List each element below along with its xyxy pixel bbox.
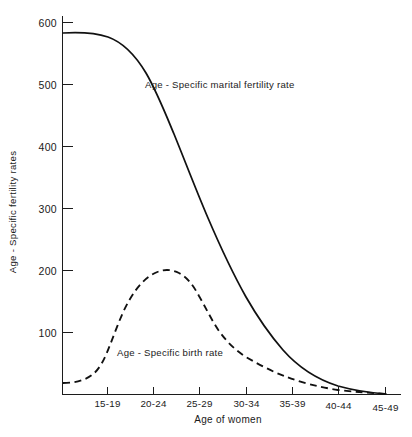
y-axis-title: Age - Specific fertility rates xyxy=(7,151,18,274)
x-tick-labels: 15-19 20-24 25-29 30-34 35-39 40-44 45-4… xyxy=(94,398,398,413)
x-tick-label-25-29: 25-29 xyxy=(186,398,212,409)
x-tick-label-20-24: 20-24 xyxy=(140,398,166,409)
x-tick-label-15-19: 15-19 xyxy=(94,398,120,409)
y-tick-label-400: 400 xyxy=(39,141,57,153)
marital-fertility-curve-label: Age - Specific marital fertility rate xyxy=(145,79,294,90)
y-tick-label-300: 300 xyxy=(39,203,57,215)
y-tick-marks xyxy=(63,23,73,333)
x-tick-label-35-39: 35-39 xyxy=(279,398,305,409)
x-tick-label-30-34: 30-34 xyxy=(233,398,259,409)
x-axis-title: Age of women xyxy=(194,414,262,425)
y-tick-label-600: 600 xyxy=(39,17,57,29)
x-tick-label-45-49: 45-49 xyxy=(372,402,398,413)
birth-rate-curve xyxy=(63,270,386,394)
y-tick-label-500: 500 xyxy=(39,79,57,91)
y-tick-label-100: 100 xyxy=(39,327,57,339)
fertility-rate-chart: 600 500 400 300 200 100 15-19 20-24 25-2… xyxy=(0,0,412,437)
y-tick-label-200: 200 xyxy=(39,265,57,277)
chart-canvas: 600 500 400 300 200 100 15-19 20-24 25-2… xyxy=(0,0,412,437)
y-tick-labels: 600 500 400 300 200 100 xyxy=(39,17,57,339)
x-tick-label-40-44: 40-44 xyxy=(325,400,351,411)
birth-rate-curve-label: Age - Specific birth rate xyxy=(117,347,223,358)
